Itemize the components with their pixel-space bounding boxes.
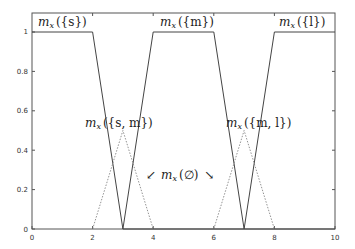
x-tick-8: 8 bbox=[272, 234, 276, 242]
series-m-s bbox=[32, 32, 335, 229]
y-tick-1: 1 bbox=[24, 28, 28, 36]
series-m-m bbox=[123, 32, 244, 229]
chart: 0 2 4 6 8 10 0 0.2 0.4 0.6 0.8 1 mx({s})… bbox=[0, 0, 355, 249]
y-tick-0.6: 0.6 bbox=[17, 107, 29, 115]
label-m-empty: ↙mx(∅)↘ bbox=[146, 168, 214, 183]
label-m-l: mx({l}) bbox=[279, 15, 325, 30]
x-tick-10: 10 bbox=[331, 234, 340, 242]
x-tick-0: 0 bbox=[30, 234, 34, 242]
label-m-s: mx({s}) bbox=[38, 15, 87, 30]
y-tick-0.2: 0.2 bbox=[17, 186, 28, 194]
x-tick-6: 6 bbox=[212, 234, 217, 242]
series-m-l bbox=[244, 32, 335, 229]
label-m-m: mx({m}) bbox=[160, 15, 214, 30]
y-tick-0.4: 0.4 bbox=[17, 147, 29, 155]
y-axis: 0 0.2 0.4 0.6 0.8 1 bbox=[17, 28, 335, 233]
label-m-ml: mx({m, l}) bbox=[226, 116, 291, 131]
series-m-sm bbox=[93, 131, 154, 230]
label-m-sm: mx({s, m}) bbox=[85, 116, 153, 131]
x-tick-4: 4 bbox=[151, 234, 156, 242]
x-axis: 0 2 4 6 8 10 bbox=[30, 13, 340, 242]
y-tick-0: 0 bbox=[24, 226, 28, 234]
x-tick-2: 2 bbox=[90, 234, 94, 242]
y-tick-0.8: 0.8 bbox=[17, 68, 28, 76]
series-m-ml bbox=[214, 131, 275, 230]
